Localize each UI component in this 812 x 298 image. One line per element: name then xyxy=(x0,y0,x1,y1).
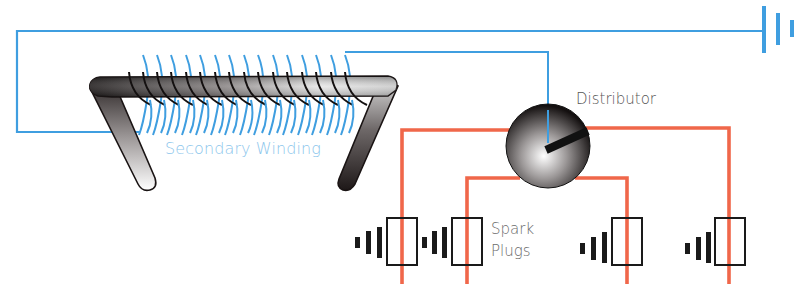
distributor xyxy=(506,104,590,188)
secondary-winding-label: Secondary Winding xyxy=(165,139,321,158)
diagram-canvas xyxy=(0,0,812,298)
spark-plug-1 xyxy=(355,218,417,265)
spark-plug-2 xyxy=(422,218,482,265)
ignition-diagram: Secondary Winding Distributor Spark Plug… xyxy=(0,0,812,298)
spark-icon xyxy=(580,243,585,254)
spark-icon xyxy=(685,243,690,254)
spark-icon xyxy=(355,237,360,248)
spark-plug-4 xyxy=(685,218,745,265)
spark-plugs-label: Spark Plugs xyxy=(491,218,534,262)
battery-icon xyxy=(762,6,794,53)
spark-plugs-label-line2: Plugs xyxy=(491,240,534,262)
spark-plug-3 xyxy=(580,218,642,265)
distributor-label: Distributor xyxy=(576,90,656,108)
spark-plugs-label-line1: Spark xyxy=(491,218,534,240)
spark-icon xyxy=(422,237,427,248)
